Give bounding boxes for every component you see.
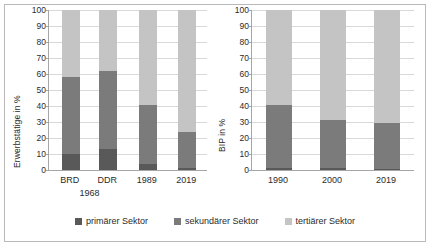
bar-segment [139,164,157,170]
x-tick-label: DDR [98,175,118,185]
x-tick-label: 2019 [376,175,396,185]
bar-stack [374,10,400,170]
bar-segment [99,10,117,71]
bar-segment [99,71,117,149]
y-tick-mark [46,42,49,43]
y-tick-mark [249,42,252,43]
x-tick-label: 2000 [322,175,342,185]
bar-stack [62,10,80,170]
bar-segment [374,10,400,123]
y-tick-mark [249,90,252,91]
y-tick-mark [249,58,252,59]
y-tick-label: 40 [37,101,46,111]
plot-area-bip [251,10,414,171]
y-tick-label: 40 [240,101,249,111]
bar-segment [99,149,117,170]
y-tick-mark [249,170,252,171]
y-tick-label: 100 [235,5,249,15]
bar-segment [139,105,157,164]
legend-item[interactable]: tertiärer Sektor [285,216,356,226]
y-tick-label: 80 [37,37,46,47]
bar-segment [62,10,80,77]
x-group-label: 1968 [79,188,99,198]
legend-label: tertiärer Sektor [296,216,356,226]
y-tick-mark [249,122,252,123]
y-tick-label: 90 [240,21,249,31]
y-tick-mark [249,26,252,27]
x-tick-label: 1989 [137,175,157,185]
bar-stack [99,10,117,170]
legend-swatch-icon [75,218,82,225]
y-tick-mark [249,138,252,139]
bar-stack [320,10,346,170]
bar-segment [374,123,400,169]
bar-segment [62,77,80,154]
y-tick-mark [46,58,49,59]
bar-segment [374,169,400,170]
y-tick-label: 10 [37,149,46,159]
y-tick-mark [46,106,49,107]
y-tick-mark [46,154,49,155]
legend-label: sekundärer Sektor [185,216,259,226]
bar-stack [139,10,157,170]
bar-segment [178,168,196,170]
bar-segment [320,168,346,170]
y-axis-title-erwerbstaetige: Erwerbstätige in % [12,8,24,168]
x-tick-label: BRD [60,175,79,185]
y-tick-label: 90 [37,21,46,31]
y-tick-label: 100 [32,5,46,15]
y-tick-mark [249,10,252,11]
y-tick-mark [46,170,49,171]
plot-area-erwerbstaetige [48,10,207,171]
y-axis-ticks-bip: 0102030405060708090100 [227,10,249,170]
y-tick-mark [46,122,49,123]
bar-segment [320,10,346,120]
y-tick-label: 60 [240,69,249,79]
y-tick-label: 50 [240,85,249,95]
y-tick-mark [249,74,252,75]
y-tick-label: 20 [37,133,46,143]
chart-figure: Erwerbstätige in % 010203040506070809010… [0,0,430,246]
y-tick-label: 20 [240,133,249,143]
chart-panel-bip: BIP in % 0102030405060708090100 19902000… [215,10,420,208]
y-tick-label: 10 [240,149,249,159]
y-tick-label: 60 [37,69,46,79]
x-tick-label: 1990 [268,175,288,185]
chart-legend: primärer Sektorsekundärer Sektortertiäre… [0,216,430,226]
y-tick-mark [249,106,252,107]
legend-swatch-icon [285,218,292,225]
x-axis-labels-bip: 199020002019 [251,172,413,196]
y-tick-mark [46,10,49,11]
bar-segment [266,168,292,170]
y-tick-mark [249,154,252,155]
x-axis-labels-erwerbstaetige: BRD1968DDR19892019 [48,172,206,196]
y-axis-ticks-erwerbstaetige: 0102030405060708090100 [24,10,46,170]
chart-panel-erwerbstaetige: Erwerbstätige in % 010203040506070809010… [10,10,210,208]
y-tick-label: 30 [37,117,46,127]
legend-item[interactable]: sekundärer Sektor [174,216,259,226]
bar-segment [320,120,346,168]
bar-segment [178,132,196,169]
bar-segment [62,154,80,170]
y-tick-label: 50 [37,85,46,95]
bar-stack [266,10,292,170]
y-tick-mark [46,138,49,139]
legend-label: primärer Sektor [86,216,148,226]
bar-segment [139,10,157,105]
legend-item[interactable]: primärer Sektor [75,216,148,226]
bar-segment [178,10,196,132]
bar-segment [266,10,292,105]
y-tick-mark [46,26,49,27]
y-tick-label: 80 [240,37,249,47]
y-tick-label: 70 [240,53,249,63]
x-tick-label: 2019 [176,175,196,185]
bar-stack [178,10,196,170]
y-tick-label: 30 [240,117,249,127]
bar-segment [266,105,292,168]
y-tick-label: 70 [37,53,46,63]
y-tick-mark [46,74,49,75]
legend-swatch-icon [174,218,181,225]
y-tick-mark [46,90,49,91]
